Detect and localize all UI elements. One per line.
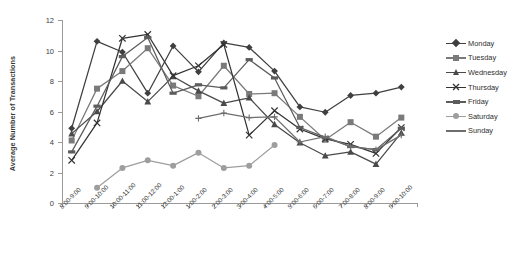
y-tick: 2: [58, 173, 62, 174]
legend-marker-diamond-icon: [446, 38, 466, 48]
y-tick-label: 2: [50, 168, 54, 177]
y-tick: 12: [58, 20, 62, 21]
x-tick: [417, 203, 418, 207]
legend-label: Saturday: [466, 112, 498, 121]
legend-item-wednesday[interactable]: Wednesday: [446, 65, 524, 80]
legend-item-monday[interactable]: Monday: [446, 36, 524, 51]
data-point-dash: [170, 92, 177, 95]
data-point-plus: [195, 115, 201, 121]
data-point-diamond: [398, 84, 405, 91]
legend-item-saturday[interactable]: Saturday: [446, 109, 524, 124]
data-point-cross: [271, 108, 277, 114]
data-point-circle: [246, 163, 252, 169]
legend-label: Monday: [466, 39, 494, 48]
data-point-circle: [119, 165, 125, 171]
data-point-dash: [195, 83, 202, 86]
legend-item-thursday[interactable]: Thursday: [446, 80, 524, 95]
data-point-square: [145, 45, 151, 51]
data-point-dash: [68, 150, 75, 153]
data-point-square: [373, 134, 379, 140]
data-point-dash: [144, 36, 151, 39]
data-point-triangle: [119, 77, 126, 83]
legend-marker-cross-icon: [446, 82, 466, 92]
data-point-square: [221, 63, 227, 69]
legend-marker-square-icon: [446, 53, 466, 63]
data-point-diamond: [322, 109, 329, 116]
y-tick-label: 10: [46, 46, 54, 55]
data-point-circle: [221, 165, 227, 171]
data-point-dash: [246, 58, 253, 61]
data-point-dash: [93, 105, 100, 108]
chart-legend: MondayTuesdayWednesdayThursdayFridaySatu…: [446, 36, 524, 138]
data-point-triangle: [195, 87, 202, 93]
legend-label: Friday: [466, 97, 489, 106]
y-tick: 6: [58, 112, 62, 113]
data-point-diamond: [144, 90, 151, 97]
data-point-cross: [94, 120, 100, 126]
legend-item-friday[interactable]: Friday: [446, 94, 524, 109]
series-layer: [62, 20, 417, 203]
data-point-square: [297, 114, 303, 120]
y-axis-title: Average Number of Transactions: [6, 18, 20, 208]
data-point-dash: [220, 86, 227, 89]
series-wednesday: [68, 73, 404, 167]
data-point-dash: [271, 76, 278, 79]
legend-item-tuesday[interactable]: Tuesday: [446, 51, 524, 66]
data-point-dash: [119, 55, 126, 58]
data-point-square: [119, 68, 125, 74]
series-thursday: [68, 31, 404, 163]
legend-label: Thursday: [466, 83, 499, 92]
y-axis-line: [62, 20, 63, 203]
legend-marker-circle-icon: [446, 111, 466, 121]
data-point-diamond: [373, 90, 380, 97]
y-tick-label: 0: [50, 199, 54, 208]
data-point-plus: [398, 132, 404, 138]
legend-label: Wednesday: [466, 68, 507, 77]
data-point-square: [348, 119, 354, 125]
plot-area: 024681012: [62, 20, 417, 203]
data-point-circle: [145, 157, 151, 163]
data-point-plus: [246, 114, 252, 120]
y-tick: 4: [58, 142, 62, 143]
data-point-square: [195, 93, 201, 99]
data-point-dash: [398, 127, 405, 130]
series-tuesday: [69, 45, 405, 143]
data-point-dash: [296, 126, 303, 129]
data-point-square: [94, 86, 100, 92]
data-point-circle: [272, 142, 278, 148]
x-axis-labels: 8:00-9:009:00-10:0010:00-11:0011:00-12:0…: [62, 205, 417, 265]
data-point-plus: [221, 110, 227, 116]
legend-item-sunday[interactable]: Sunday: [446, 124, 524, 139]
y-tick-label: 12: [46, 16, 54, 25]
legend-marker-dash-icon: [446, 97, 466, 107]
data-point-square: [398, 115, 404, 121]
data-point-square: [69, 137, 75, 143]
line-chart: Average Number of Transactions 024681012…: [0, 0, 525, 269]
y-tick: 8: [58, 81, 62, 82]
data-point-diamond: [347, 92, 354, 99]
data-point-circle: [195, 150, 201, 156]
series-saturday: [94, 142, 278, 191]
y-tick-label: 4: [50, 138, 54, 147]
y-tick: 10: [58, 51, 62, 52]
data-point-diamond: [94, 38, 101, 45]
data-point-cross: [68, 157, 74, 163]
legend-marker-plus-icon: [446, 126, 466, 136]
data-point-cross: [195, 63, 201, 69]
data-point-circle: [170, 163, 176, 169]
legend-marker-triangle-icon: [446, 67, 466, 77]
data-point-square: [272, 90, 278, 96]
y-tick-label: 6: [50, 107, 54, 116]
legend-label: Sunday: [466, 126, 493, 135]
legend-label: Tuesday: [466, 53, 496, 62]
y-tick-label: 8: [50, 77, 54, 86]
